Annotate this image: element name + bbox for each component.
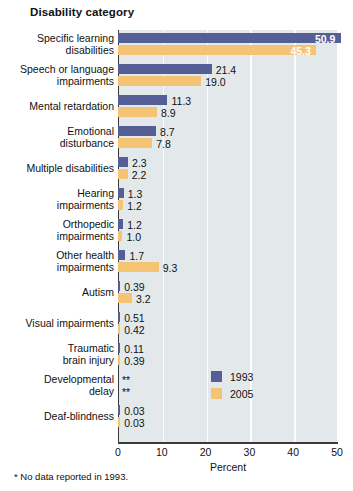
bar-row: Mental retardation11.38.9: [0, 92, 353, 123]
bar-row: Autism0.393.2: [0, 278, 353, 309]
legend-label-1993: 1993: [230, 371, 253, 383]
category-label: Multiple disabilities: [0, 154, 114, 175]
value-label-2005: 1.2: [127, 201, 142, 211]
bar-1993: [118, 343, 120, 353]
bar-row: Traumaticbrain injury0.110.39: [0, 340, 353, 371]
category-label-line: Orthopedic: [0, 219, 114, 231]
bar-row: Speech or languageimpairments21.419.0: [0, 61, 353, 92]
legend-item-1993: 1993: [211, 368, 253, 385]
value-label-1993: 50.9: [315, 34, 335, 44]
x-tick-label-30: 30: [229, 446, 269, 458]
category-label: Visual impairments: [0, 309, 114, 330]
bar-2005: [118, 262, 159, 272]
bar-2005: [118, 200, 123, 210]
bar-row: Multiple disabilities2.32.2: [0, 154, 353, 185]
bar-1993: [118, 219, 123, 229]
bar-2005: [118, 138, 152, 148]
category-label-line: brain injury: [0, 355, 114, 367]
page-title: Disability category: [30, 6, 134, 18]
value-label-1993: 8.7: [160, 127, 175, 137]
category-label: Emotionaldisturbance: [0, 123, 114, 149]
x-tick-label-20: 20: [186, 446, 226, 458]
value-label-1993: 1.7: [129, 251, 144, 261]
value-label-2005: 9.3: [163, 263, 178, 273]
value-label-1993: **: [122, 375, 130, 385]
bar-1993: [118, 250, 125, 260]
category-label: Specific learningdisabilities: [0, 30, 114, 56]
bar-row: Deaf-blindness0.030.03: [0, 402, 353, 433]
bar-row: Hearingimpairments1.31.2: [0, 185, 353, 216]
category-label-line: Other health: [0, 250, 114, 262]
x-tick-label-40: 40: [273, 446, 313, 458]
value-label-2005: **: [122, 387, 130, 397]
value-label-2005: 2.2: [132, 170, 147, 180]
x-tick-label-50: 50: [317, 446, 353, 458]
category-label-line: Autism: [0, 287, 114, 299]
x-axis-label: Percent: [118, 461, 338, 473]
category-label-line: Visual impairments: [0, 318, 114, 330]
bar-1993: [118, 157, 128, 167]
legend: 1993 2005: [211, 368, 253, 402]
category-label-line: Emotional: [0, 126, 114, 138]
value-label-2005: 45.3: [290, 46, 310, 56]
category-label: Developmentaldelay: [0, 371, 114, 397]
value-label-2005: 0.42: [124, 325, 144, 335]
category-label-line: disturbance: [0, 138, 114, 150]
footnote: * No data reported in 1993.: [14, 471, 128, 482]
legend-swatch-1993: [211, 371, 222, 382]
category-label: Traumaticbrain injury: [0, 340, 114, 366]
bar-2005: [118, 324, 120, 334]
category-label-line: Speech or language: [0, 64, 114, 76]
category-label: Other healthimpairments: [0, 247, 114, 273]
value-label-2005: 19.0: [205, 77, 225, 87]
category-label-line: Deaf-blindness: [0, 411, 114, 423]
category-label-line: delay: [0, 386, 114, 398]
value-label-2005: 1.0: [126, 232, 141, 242]
bar-2005: [118, 231, 122, 241]
x-tick-label-0: 0: [98, 446, 138, 458]
bar-1993: [118, 33, 341, 43]
value-label-2005: 0.03: [124, 418, 144, 428]
bar-2005: [118, 107, 157, 117]
category-label: Hearingimpairments: [0, 185, 114, 211]
value-label-1993: 0.11: [124, 344, 144, 354]
bar-1993: [118, 312, 120, 322]
bar-2005: [118, 355, 120, 365]
value-label-2005: 7.8: [156, 139, 171, 149]
category-label-line: Mental retardation: [0, 101, 114, 113]
x-tick-label-10: 10: [142, 446, 182, 458]
category-label-line: Multiple disabilities: [0, 163, 114, 175]
bar-row: Visual impairments0.510.42: [0, 309, 353, 340]
bar-row: Developmentaldelay****: [0, 371, 353, 402]
value-label-1993: 0.51: [124, 313, 144, 323]
value-label-2005: 3.2: [136, 294, 151, 304]
category-label-line: Developmental: [0, 374, 114, 386]
category-label: Mental retardation: [0, 92, 114, 113]
value-label-1993: 1.3: [128, 189, 143, 199]
category-label-line: impairments: [0, 262, 114, 274]
bar-row: Specific learningdisabilities50.945.3: [0, 30, 353, 61]
bar-1993: [118, 405, 120, 415]
category-label-line: Hearing: [0, 188, 114, 200]
value-label-2005: 8.9: [161, 108, 176, 118]
category-label: Speech or languageimpairments: [0, 61, 114, 87]
value-label-1993: 2.3: [132, 158, 147, 168]
bar-1993: [118, 64, 212, 74]
bar-2005: [118, 76, 201, 86]
value-label-1993: 11.3: [171, 96, 191, 106]
category-label-line: impairments: [0, 231, 114, 243]
bar-1993: [118, 281, 120, 291]
x-axis-line: [118, 442, 338, 444]
category-label-line: disabilities: [0, 45, 114, 57]
legend-item-2005: 2005: [211, 385, 253, 402]
category-label-line: Traumatic: [0, 343, 114, 355]
value-label-1993: 0.39: [124, 282, 144, 292]
value-label-1993: 21.4: [216, 65, 236, 75]
bar-row: Emotionaldisturbance8.77.8: [0, 123, 353, 154]
bar-row: Orthopedicimpairments1.21.0: [0, 216, 353, 247]
value-label-2005: 0.39: [124, 356, 144, 366]
bar-1993: [118, 95, 167, 105]
category-label-line: impairments: [0, 200, 114, 212]
value-label-1993: 0.03: [124, 406, 144, 416]
category-label: Autism: [0, 278, 114, 299]
